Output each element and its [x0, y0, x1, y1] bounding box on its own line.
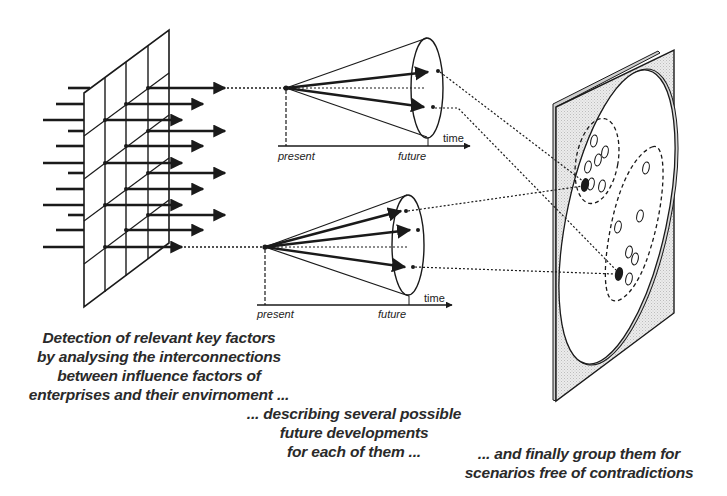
cone-lower-time-label: time [424, 292, 445, 304]
projection-cone-lower [257, 195, 452, 305]
cone-lower-present-label: present [256, 308, 295, 320]
projection-cone-upper [278, 38, 470, 146]
caption-line: Detection of relevant key factors [24, 328, 294, 347]
cone-upper-future-label: future [398, 150, 426, 162]
caption-line: ... and finally group them for [454, 444, 704, 463]
caption-line: scenarios free of contradictions [454, 463, 704, 482]
scenario-plate [537, 50, 700, 401]
caption-key-factors: Detection of relevant key factors by ana… [24, 328, 294, 404]
cone-upper-time-label: time [443, 132, 464, 144]
caption-line: ... describing several possible [244, 404, 464, 423]
cone-lower-future-label: future [378, 308, 406, 320]
caption-line: between influence factors of [24, 366, 294, 385]
input-arrows [43, 88, 90, 247]
caption-line: enterprises and their envirnoment ... [24, 385, 294, 404]
caption-future-developments: ... describing several possible future d… [244, 404, 464, 461]
caption-line: future developments [244, 423, 464, 442]
caption-line: by analysing the interconnections [24, 347, 294, 366]
caption-line: for each of them ... [244, 442, 464, 461]
cone-upper-present-label: present [277, 150, 316, 162]
key-factor-grid [43, 30, 225, 307]
grid-to-cone-connectors [184, 88, 285, 247]
caption-scenario-grouping: ... and finally group them for scenarios… [454, 444, 704, 482]
